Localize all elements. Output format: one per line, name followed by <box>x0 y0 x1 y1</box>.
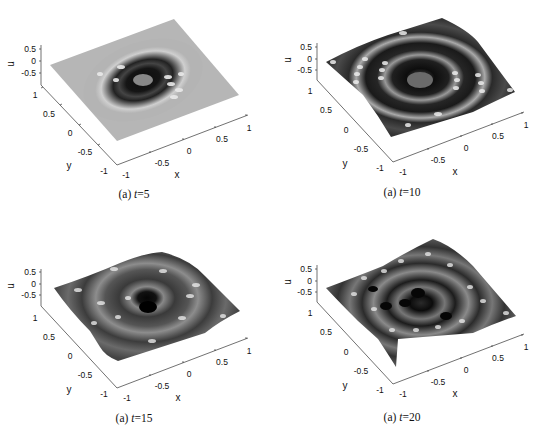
y-tick-neg1: -1 <box>100 166 108 176</box>
u-tick-0.5: 0.5 <box>300 264 312 274</box>
x-tick-0: 0 <box>464 365 469 375</box>
x-axis-label: x <box>453 388 458 399</box>
u-tick-0.5: 0.5 <box>24 44 36 54</box>
x-tick-neg1: -1 <box>123 393 131 403</box>
u-tick-0: 0 <box>31 56 36 66</box>
u-tick-0: 0 <box>307 54 312 64</box>
u-axis-label: u <box>5 283 16 289</box>
x-tick-1: 1 <box>524 342 529 352</box>
u-axis-label: u <box>282 279 293 285</box>
u-tick-neg0.5: -0.5 <box>297 65 312 75</box>
panel-t5: 0.5 0 -0.5 u 1 0.5 0 -0.5 -1 y -1 -0.5 0… <box>0 0 268 221</box>
x-tick-0.5: 0.5 <box>216 357 228 367</box>
y-axis-label: y <box>67 160 72 171</box>
u-tick-0: 0 <box>31 279 36 289</box>
x-tick-1: 1 <box>247 123 252 133</box>
panel-t15: 0.5 0 -0.5 u 1 0.5 0 -0.5 -1 y -1 -0.5 0… <box>0 221 268 442</box>
x-tick-0.5: 0.5 <box>492 353 504 363</box>
y-tick-0.5: 0.5 <box>320 105 332 115</box>
y-axis-label: y <box>343 158 348 169</box>
y-tick-1: 1 <box>33 90 38 100</box>
y-axis-label: y <box>67 384 72 395</box>
x-tick-neg0.5: -0.5 <box>431 155 446 165</box>
x-tick-neg1: -1 <box>399 167 407 177</box>
y-tick-1: 1 <box>308 86 313 96</box>
u-axis-label: u <box>5 61 16 67</box>
x-tick-neg1: -1 <box>122 170 130 180</box>
x-tick-neg0.5: -0.5 <box>155 381 170 391</box>
y-tick-neg1: -1 <box>376 163 384 173</box>
caption-t10: (a) t=10 <box>268 186 536 198</box>
y-tick-0.5: 0.5 <box>320 327 332 337</box>
y-tick-neg0.5: -0.5 <box>354 366 369 376</box>
y-tick-0.5: 0.5 <box>43 109 55 119</box>
u-tick-0.5: 0.5 <box>300 42 312 52</box>
panel-t10: 0.5 0 -0.5 u 1 0.5 0 -0.5 -1 y -1 -0.5 0… <box>268 0 536 221</box>
x-tick-neg1: -1 <box>399 389 407 399</box>
y-tick-0: 0 <box>344 125 349 135</box>
x-tick-1: 1 <box>247 346 252 356</box>
y-tick-1: 1 <box>308 308 313 318</box>
caption-t20: (a) t=20 <box>268 411 536 423</box>
caption-t15: (a) t=15 <box>0 412 268 424</box>
y-tick-neg0.5: -0.5 <box>78 147 93 157</box>
x-tick-neg0.5: -0.5 <box>155 158 170 168</box>
x-tick-neg0.5: -0.5 <box>431 377 446 387</box>
x-axis-label: x <box>175 169 180 180</box>
y-tick-neg1: -1 <box>376 385 384 395</box>
y-tick-neg0.5: -0.5 <box>354 144 369 154</box>
surface-plot-t20: 0.5 0 -0.5 u 1 0.5 0 -0.5 -1 y -1 -0.5 0… <box>268 221 536 442</box>
y-tick-neg0.5: -0.5 <box>78 370 93 380</box>
x-tick-0.5: 0.5 <box>492 131 504 141</box>
x-axis-label: x <box>453 166 458 177</box>
surface-plot-t15: 0.5 0 -0.5 u 1 0.5 0 -0.5 -1 y -1 -0.5 0… <box>0 221 268 442</box>
panel-t20: 0.5 0 -0.5 u 1 0.5 0 -0.5 -1 y -1 -0.5 0… <box>268 221 536 442</box>
u-tick-0.5: 0.5 <box>24 267 36 277</box>
surface <box>54 235 240 361</box>
x-tick-0.5: 0.5 <box>216 134 228 144</box>
u-tick-neg0.5: -0.5 <box>21 68 36 78</box>
x-tick-0: 0 <box>464 143 469 153</box>
u-tick-neg0.5: -0.5 <box>297 287 312 297</box>
y-tick-neg1: -1 <box>100 389 108 399</box>
y-axis-label: y <box>343 380 348 391</box>
y-tick-0.5: 0.5 <box>43 332 55 342</box>
y-tick-0: 0 <box>344 347 349 357</box>
u-tick-neg0.5: -0.5 <box>21 290 36 300</box>
x-tick-0: 0 <box>187 369 192 379</box>
x-tick-0: 0 <box>187 146 192 156</box>
u-axis-label: u <box>282 57 293 63</box>
y-tick-0: 0 <box>68 351 73 361</box>
y-tick-0: 0 <box>68 128 73 138</box>
u-tick-0: 0 <box>307 276 312 286</box>
y-tick-1: 1 <box>33 313 38 323</box>
caption-t5: (a) t=5 <box>0 188 268 200</box>
x-axis-label: x <box>176 392 181 403</box>
x-tick-1: 1 <box>524 120 529 130</box>
